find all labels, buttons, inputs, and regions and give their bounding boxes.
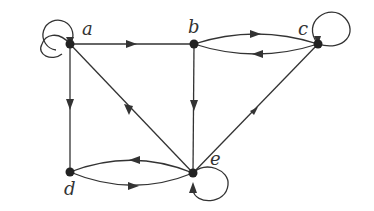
node-d	[66, 168, 75, 177]
edge-d-e	[70, 172, 193, 185]
node-label-a: a	[82, 20, 93, 38]
arrow-b-c	[250, 30, 261, 38]
edge-e-e	[193, 167, 228, 201]
directed-graph: a b c d e	[0, 0, 374, 211]
edge-e-d	[70, 160, 193, 173]
arrow-e-d	[129, 156, 140, 164]
arrow-a-d	[66, 99, 74, 110]
arrow-c-b	[252, 50, 263, 58]
node-label-c: c	[298, 20, 308, 38]
edge-a-a	[41, 35, 70, 57]
node-e	[189, 169, 198, 178]
arrow-b-e	[190, 100, 198, 111]
arrow-e-e	[189, 182, 197, 193]
edge-c-b	[194, 44, 318, 54]
arrow-a-b	[126, 40, 137, 48]
node-c	[314, 40, 323, 49]
node-label-d: d	[64, 180, 76, 198]
node-label-e: e	[210, 150, 221, 168]
node-b	[190, 40, 199, 49]
node-label-b: b	[188, 18, 200, 36]
graph-canvas	[0, 0, 374, 211]
arrow-d-e	[128, 182, 139, 190]
node-a	[66, 40, 75, 49]
